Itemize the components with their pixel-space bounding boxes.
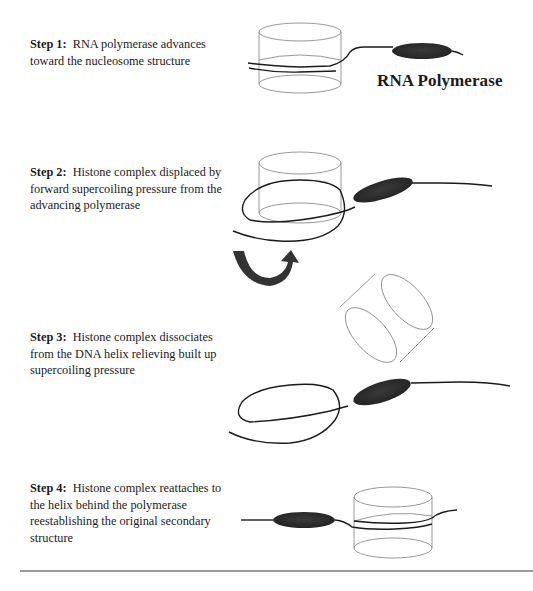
histone-cylinder-icon bbox=[259, 23, 341, 93]
step-2-figure bbox=[233, 152, 492, 286]
rna-polymerase-icon bbox=[350, 373, 413, 411]
step-3-figure bbox=[229, 266, 510, 443]
rna-polymerase-icon bbox=[273, 512, 335, 528]
step-4-figure bbox=[241, 487, 457, 558]
histone-cylinder-dissociated-icon bbox=[336, 266, 441, 371]
rna-polymerase-icon bbox=[351, 172, 416, 207]
histone-cylinder-icon bbox=[259, 152, 341, 223]
step-1-figure bbox=[248, 23, 463, 93]
rotation-arrow-icon bbox=[233, 250, 299, 286]
divider-line bbox=[20, 570, 533, 572]
rna-polymerase-icon bbox=[392, 43, 452, 59]
nucleosome-diagram bbox=[0, 0, 533, 591]
